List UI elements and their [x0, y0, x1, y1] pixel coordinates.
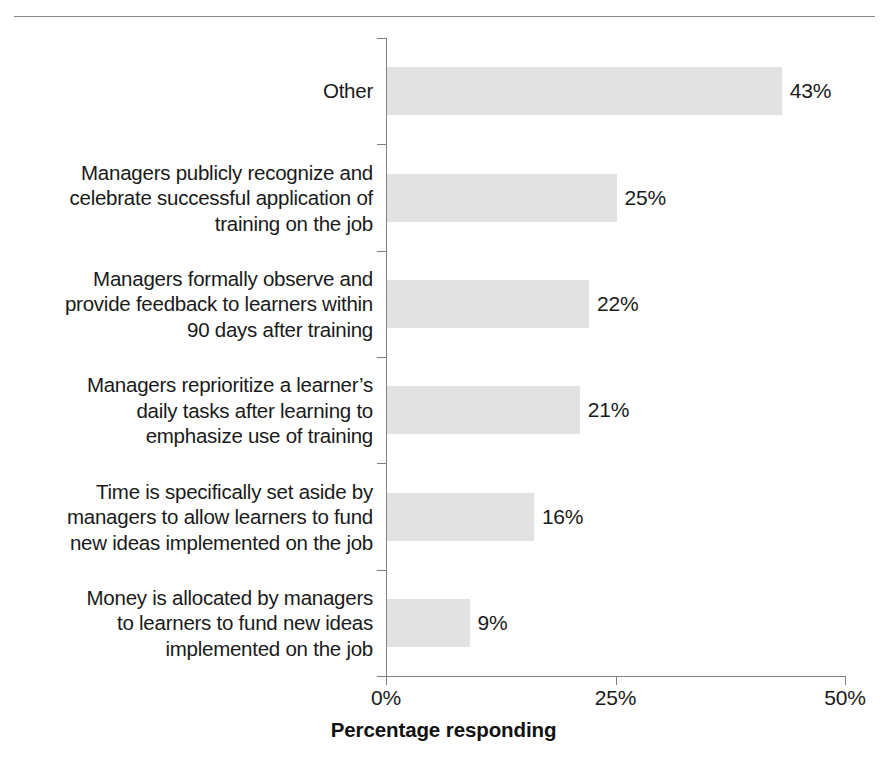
x-axis-tick	[845, 676, 846, 685]
y-axis-tick	[377, 357, 386, 358]
category-label-managers-formally-observe: Managers formally observe and provide fe…	[0, 266, 373, 343]
bar-band: 22%	[386, 280, 845, 328]
category-label-time-set-aside: Time is specifically set aside by manage…	[0, 478, 373, 555]
category-label-managers-publicly-recognize: Managers publicly recognize and celebrat…	[0, 159, 373, 236]
y-axis-tick	[377, 144, 386, 145]
x-axis-title-text: Percentage responding	[331, 718, 557, 742]
y-axis-tick	[377, 251, 386, 252]
bar-value-label: 9%	[478, 611, 508, 635]
chart-figure: Other Managers publicly recognize and ce…	[0, 0, 887, 764]
y-axis-tick	[377, 38, 386, 39]
y-axis-tick	[377, 676, 386, 677]
category-label-money-allocated: Money is allocated by managers to learne…	[0, 585, 373, 662]
bar-band: 25%	[386, 174, 845, 222]
x-tick-label-50: 50%	[824, 686, 865, 710]
bar-value-label: 22%	[597, 292, 638, 316]
bar[interactable]	[387, 599, 470, 647]
bar[interactable]	[387, 174, 617, 222]
bar-value-label: 16%	[542, 505, 583, 529]
x-tick-label-25: 25%	[595, 686, 636, 710]
bar-value-label: 25%	[625, 186, 666, 210]
bar-band: 16%	[386, 493, 845, 541]
y-axis-line	[386, 38, 387, 676]
y-axis-tick	[377, 463, 386, 464]
x-tick-label-0: 0%	[371, 686, 401, 710]
bar-value-label: 21%	[588, 398, 629, 422]
x-axis-tick	[616, 676, 617, 685]
y-axis-tick	[377, 570, 386, 571]
bar[interactable]	[387, 67, 782, 115]
bar[interactable]	[387, 493, 534, 541]
category-axis-labels: Other Managers publicly recognize and ce…	[0, 38, 373, 676]
bar-band: 9%	[386, 599, 845, 647]
plot-area: 43% 25% 22% 21% 16% 9%	[386, 38, 845, 676]
bar-band: 21%	[386, 386, 845, 434]
x-axis-tick	[386, 676, 387, 685]
category-label-other: Other	[0, 78, 373, 104]
bar-value-label: 43%	[790, 79, 831, 103]
bar[interactable]	[387, 280, 589, 328]
category-label-managers-reprioritize: Managers reprioritize a learner’s daily …	[0, 372, 373, 449]
bar-band: 43%	[386, 67, 845, 115]
top-divider-rule	[14, 16, 875, 17]
bar[interactable]	[387, 386, 580, 434]
x-axis-title: Percentage responding	[0, 718, 887, 742]
